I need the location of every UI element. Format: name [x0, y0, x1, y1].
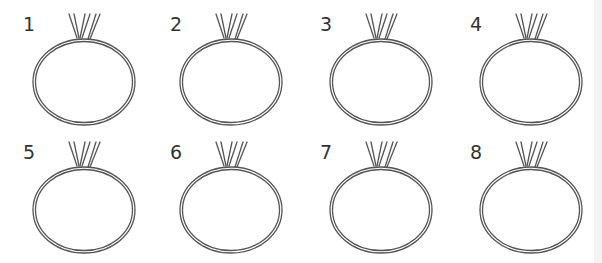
oval-item-7: 7	[297, 128, 447, 258]
oval-item-8: 8	[447, 128, 597, 258]
ring-with-strings-icon	[0, 0, 150, 130]
ring-with-strings-icon	[447, 0, 597, 130]
oval-item-3: 3	[297, 0, 447, 130]
oval-item-5: 5	[0, 128, 150, 258]
ring-with-strings-icon	[147, 128, 297, 258]
oval-item-6: 6	[147, 128, 297, 258]
ring-with-strings-icon	[0, 128, 150, 258]
ring-with-strings-icon	[297, 128, 447, 258]
ring-with-strings-icon	[297, 0, 447, 130]
oval-item-2: 2	[147, 0, 297, 130]
ring-with-strings-icon	[147, 0, 297, 130]
oval-item-4: 4	[447, 0, 597, 130]
oval-item-1: 1	[0, 0, 150, 130]
ring-with-strings-icon	[447, 128, 597, 258]
